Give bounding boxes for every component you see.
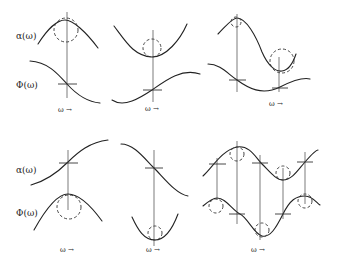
curvature-circle [255,223,269,237]
omega-axis-label: ω → [60,246,74,254]
alpha-curve [31,140,108,185]
alpha-curve [218,18,296,71]
phi-label: Φ(ω) [16,80,38,90]
phi-curve [112,72,200,103]
omega-axis-label: ω → [145,105,159,113]
curvature-circle [148,226,162,240]
alpha-label: α(ω) [16,165,36,175]
phi-curve [30,61,100,103]
alpha-curve [121,144,188,196]
omega-axis-label: ω → [58,106,72,114]
phi-curve [132,214,178,240]
alpha-curve [114,24,187,57]
diagram-canvas: α(ω) Φ(ω) ω → ω → ω → α(ω) Φ(ω) [0,0,340,267]
phi-label: Φ(ω) [16,208,38,218]
curvature-circle [270,49,294,73]
curvature-circle [57,195,81,219]
curvature-circle [209,199,223,213]
phi-curve [203,196,320,236]
panel-bottom-middle: ω → [121,144,188,254]
omega-axis-label: ω → [269,100,283,108]
omega-axis-label: ω → [146,246,160,254]
panel-bottom-right: ω → [203,141,320,254]
panel-bottom-left: α(ω) Φ(ω) ω → [16,140,108,254]
panel-top-right: ω → [208,14,310,108]
panel-top-middle: ω → [112,24,200,113]
alpha-curve [38,20,98,48]
omega-axis-label: ω → [251,246,265,254]
panel-top-left: α(ω) Φ(ω) ω → [16,12,100,114]
phi-curve [208,64,310,91]
curvature-circle [54,18,78,42]
alpha-label: α(ω) [16,31,36,41]
curvature-circle [143,39,161,57]
